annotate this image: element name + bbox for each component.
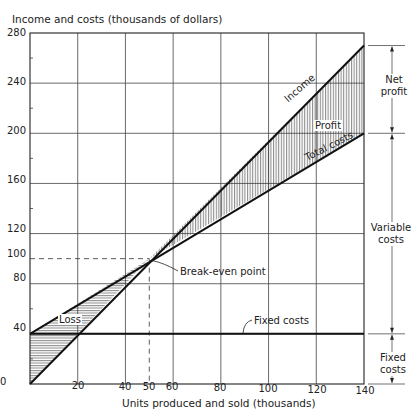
chart-canvas <box>0 0 417 420</box>
x-tick: 80 <box>208 382 232 393</box>
y-axis-label: Income and costs (thousands of dollars) <box>12 14 222 25</box>
y-tick: 160 <box>0 174 26 185</box>
y-tick: 200 <box>0 125 26 136</box>
net-profit-label: Net profit <box>376 74 412 98</box>
fixed-costs-side-line1: Fixed <box>374 352 412 364</box>
x-tick: 20 <box>66 380 90 391</box>
variable-costs-label: Variable costs <box>368 222 414 246</box>
y-tick: 120 <box>0 223 26 234</box>
net-profit-line1: Net <box>376 74 412 86</box>
y-tick: 240 <box>0 76 26 87</box>
y-tick: 40 <box>0 322 26 333</box>
loss-label: Loss <box>58 314 82 325</box>
x-tick: 120 <box>305 384 329 395</box>
profit-label: Profit <box>314 120 342 131</box>
break-even-leader <box>152 261 178 271</box>
y-tick: 80 <box>0 272 26 283</box>
x-tick: 140 <box>353 385 377 396</box>
fixed-costs-label: Fixed costs <box>254 315 309 326</box>
break-even-chart: Income and costs (thousands of dollars) … <box>0 0 417 420</box>
x-tick: 100 <box>256 383 280 394</box>
y-tick: 0 <box>0 376 26 387</box>
x-axis-label: Units produced and sold (thousands) <box>122 398 316 409</box>
fixed-costs-leader <box>243 320 252 333</box>
fixed-costs-side-line2: costs <box>374 364 412 376</box>
variable-costs-line1: Variable <box>368 222 414 234</box>
y-tick: 100 <box>0 248 26 259</box>
break-even-label: Break-even point <box>180 266 266 277</box>
y-tick: 280 <box>0 27 26 38</box>
fixed-costs-side-label: Fixed costs <box>374 352 412 376</box>
variable-costs-line2: costs <box>368 234 414 246</box>
x-tick: 50 <box>137 381 161 392</box>
x-tick: 40 <box>113 381 137 392</box>
net-profit-line2: profit <box>376 86 412 98</box>
x-tick: 60 <box>160 381 184 392</box>
